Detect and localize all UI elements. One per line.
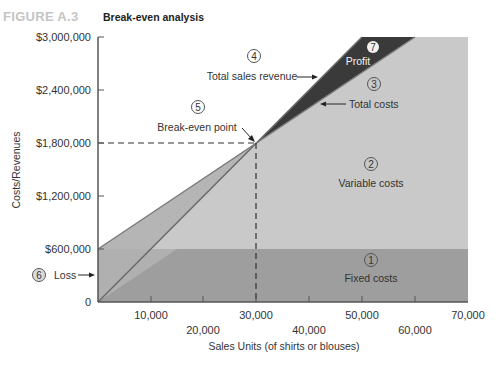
figure-number: FIGURE A.3: [3, 9, 78, 24]
y-ticks: [98, 37, 104, 249]
y-tick-label: $2,400,000: [36, 84, 91, 96]
y-tick-label: $1,800,000: [36, 137, 91, 149]
annotation-break-even: 5 Break-even point: [157, 101, 255, 143]
x-axis-label: Sales Units (of shirts or blouses): [208, 340, 359, 352]
y-tick-label: $3,000,000: [36, 31, 91, 43]
arrow-icon: [312, 75, 318, 80]
annotation-total-revenue: 4 Total sales revenue: [207, 50, 318, 83]
svg-text:Total sales revenue: Total sales revenue: [207, 70, 298, 82]
y-tick-label: $600,000: [45, 243, 91, 255]
x-tick-label: 10,000: [134, 309, 168, 321]
y-axis-label: Costs/Revenues: [10, 131, 22, 208]
svg-text:Total costs: Total costs: [349, 98, 399, 110]
x-tick-label: 30,000: [239, 309, 273, 321]
svg-text:4: 4: [251, 51, 257, 62]
y-tick-label: 0: [85, 296, 91, 308]
svg-text:7: 7: [370, 42, 376, 53]
svg-text:3: 3: [371, 79, 377, 90]
svg-text:Profit: Profit: [346, 55, 371, 67]
svg-text:1: 1: [368, 255, 374, 266]
x-tick-label: 50,000: [345, 309, 379, 321]
svg-text:2: 2: [368, 159, 374, 170]
annotation-loss: 6 Loss: [33, 269, 96, 282]
svg-text:Variable costs: Variable costs: [338, 177, 403, 189]
y-tick-label: $1,200,000: [36, 190, 91, 202]
break-even-chart: FIGURE A.3 Break-even analysis $3,000,00…: [0, 0, 499, 365]
svg-text:6: 6: [36, 270, 42, 281]
arrow-icon: [89, 273, 95, 278]
x-tick-label: 60,000: [398, 324, 432, 336]
svg-text:Break-even point: Break-even point: [157, 121, 236, 133]
svg-text:Fixed costs: Fixed costs: [344, 272, 397, 284]
svg-text:5: 5: [195, 102, 201, 113]
x-tick-label: 20,000: [186, 324, 220, 336]
x-tick-label: 70,000: [451, 309, 485, 321]
svg-text:Loss: Loss: [54, 269, 76, 281]
figure-title: Break-even analysis: [103, 11, 204, 23]
x-tick-label: 40,000: [292, 324, 326, 336]
